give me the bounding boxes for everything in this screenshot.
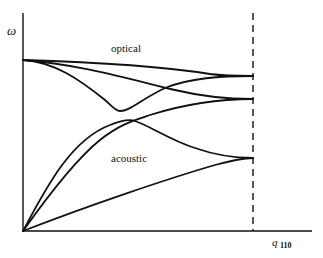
optical-branch-dip: [23, 60, 253, 111]
acoustic-branch-hump: [23, 120, 253, 231]
acoustic-branch-linear: [23, 158, 253, 231]
optical-label: optical: [111, 42, 141, 54]
dispersion-diagram: ω optical acoustic q 110: [0, 0, 323, 258]
q-axis-label: q: [272, 236, 278, 248]
q-axis-subscript: 110: [280, 241, 292, 250]
omega-axis-label: ω: [7, 23, 16, 38]
acoustic-label: acoustic: [111, 152, 147, 164]
